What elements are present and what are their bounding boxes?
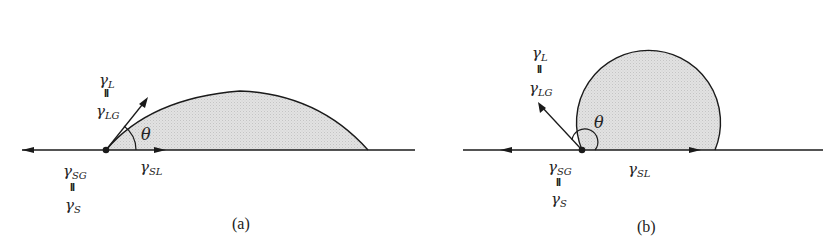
equals-sign-b-top: II — [537, 64, 541, 75]
gamma-lg-label-a: γLG — [96, 104, 120, 121]
arrow-left-icon — [500, 147, 512, 153]
contact-point-b — [579, 147, 586, 154]
gamma-symbol: γ — [628, 160, 637, 178]
panel-a — [22, 91, 415, 153]
gamma-sg-label-b: γSG — [548, 160, 572, 177]
caption-b: (b) — [637, 219, 656, 235]
subscript: LG — [538, 87, 553, 98]
subscript: SL — [149, 166, 163, 177]
gamma-symbol: γ — [65, 196, 74, 214]
subscript: SG — [72, 170, 87, 181]
equals-sign-a-bottom: II — [70, 182, 74, 193]
subscript: SL — [637, 168, 651, 179]
gamma-symbol: γ — [140, 158, 149, 176]
gamma-sl-label-a: γSL — [140, 160, 162, 177]
contact-point-a — [103, 147, 110, 154]
tangent-vector-b — [541, 106, 582, 150]
gamma-lg-label-b: γLG — [529, 81, 553, 98]
gamma-s-label-a: γS — [65, 198, 81, 215]
equals-sign-b-bottom: II — [556, 177, 560, 188]
gamma-l-label-b: γL — [532, 46, 548, 63]
contact-angle-diagram — [0, 0, 837, 250]
gamma-symbol: γ — [551, 190, 560, 208]
gamma-symbol: γ — [529, 79, 538, 97]
subscript: L — [541, 52, 548, 63]
subscript: L — [108, 79, 115, 90]
arrow-up-left-icon — [538, 102, 546, 113]
caption-a: (a) — [232, 216, 250, 232]
subscript: S — [74, 204, 81, 215]
subscript: LG — [105, 110, 120, 121]
theta-label-a: θ — [141, 127, 151, 143]
gamma-sg-label-a: γSG — [63, 164, 87, 181]
gamma-symbol: γ — [548, 158, 557, 176]
gamma-symbol: γ — [532, 44, 541, 62]
gamma-s-label-b: γS — [551, 192, 567, 209]
arrow-left-icon — [22, 147, 34, 153]
panel-b — [463, 50, 823, 153]
gamma-sl-label-b: γSL — [628, 162, 650, 179]
droplet-b — [577, 50, 721, 150]
theta-label-b: θ — [594, 115, 604, 131]
equals-sign-a-top: II — [104, 88, 108, 99]
subscript: S — [560, 198, 567, 209]
gamma-symbol: γ — [96, 102, 105, 120]
gamma-symbol: γ — [63, 162, 72, 180]
